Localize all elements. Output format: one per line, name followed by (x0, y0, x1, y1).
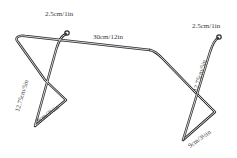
right-foot-label: 9cm/3½in (187, 128, 213, 149)
right-hook-label: 2.5cm/1in (192, 22, 221, 30)
bar-length-label: 30cm/12in (93, 33, 123, 41)
left-hook-label: 2.5cm/1in (45, 10, 74, 18)
right-leg-label: 12.75cm/5in (191, 58, 207, 92)
right-frame (150, 35, 221, 140)
rack-diagram: 2.5cm/1in 2.5cm/1in 30cm/12in 12.75cm/5i… (0, 0, 237, 158)
left-leg-label: 12.75cm/5in (13, 78, 29, 112)
left-frame (16, 31, 150, 126)
